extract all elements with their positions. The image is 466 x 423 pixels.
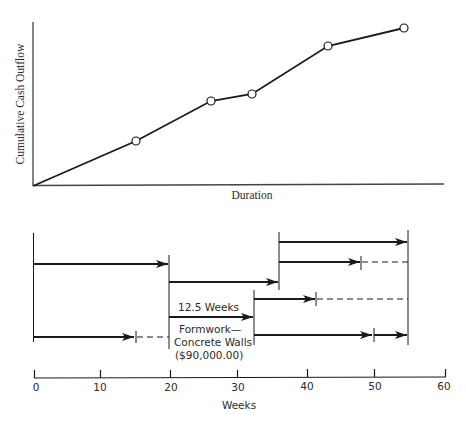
tick-label: 10	[93, 381, 106, 393]
activity-name-line2: Concrete Walls	[174, 336, 252, 348]
y-axis-label: Cumulative Cash Outflow	[14, 43, 26, 164]
tick-label: 60	[437, 380, 450, 392]
formwork-activity-labels: 12.5 Weeks Formwork— Concrete Walls ($90…	[174, 301, 252, 361]
cash-flow-line	[33, 28, 404, 186]
x-axis	[33, 184, 444, 186]
cash-flow-diagram: Cumulative Cash Outflow Duration	[0, 0, 466, 423]
data-point	[207, 97, 215, 105]
tick-label: 50	[368, 380, 381, 392]
activity-duration-label: 12.5 Weeks	[178, 301, 239, 313]
activity-cost: ($90,000.00)	[175, 349, 243, 361]
tick-label: 0	[33, 381, 40, 393]
data-markers	[132, 24, 408, 145]
tick-label: 40	[300, 380, 313, 392]
activity-name-line1: Formwork—	[179, 323, 241, 335]
weeks-tick-labels: 0 10 20 30 40 50 60	[33, 380, 451, 393]
data-point	[400, 24, 408, 32]
data-point	[248, 90, 256, 98]
tick-label: 30	[231, 381, 244, 393]
weeks-axis	[34, 369, 446, 378]
cumulative-cash-chart: Cumulative Cash Outflow Duration	[14, 22, 444, 201]
data-point	[132, 137, 140, 145]
tick-label: 20	[164, 381, 177, 393]
weeks-axis-label: Weeks	[222, 399, 256, 411]
data-point	[324, 42, 332, 50]
weeks-axis-line	[34, 377, 446, 378]
x-axis-label: Duration	[232, 189, 273, 201]
